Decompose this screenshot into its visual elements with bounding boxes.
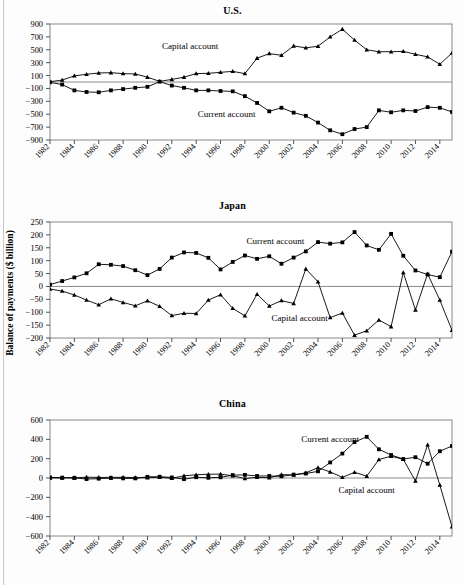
svg-text:900: 900: [30, 20, 43, 29]
svg-text:2004: 2004: [301, 537, 320, 556]
svg-text:−900: −900: [26, 136, 43, 145]
svg-text:1990: 1990: [131, 340, 149, 358]
svg-text:2002: 2002: [277, 340, 295, 358]
series-annotation: Capital account: [272, 313, 329, 323]
svg-text:1992: 1992: [155, 538, 173, 556]
svg-text:1984: 1984: [58, 141, 77, 160]
svg-text:1996: 1996: [204, 538, 222, 556]
svg-text:2012: 2012: [399, 142, 417, 160]
svg-text:2004: 2004: [301, 339, 320, 358]
svg-text:2010: 2010: [374, 340, 392, 358]
svg-text:200: 200: [30, 455, 43, 464]
svg-text:300: 300: [30, 59, 43, 68]
svg-text:1984: 1984: [58, 339, 77, 358]
svg-text:2000: 2000: [252, 340, 270, 358]
svg-text:2008: 2008: [350, 538, 368, 556]
svg-text:−500: −500: [26, 110, 43, 119]
svg-text:0: 0: [39, 282, 43, 291]
svg-text:1986: 1986: [82, 538, 100, 556]
chart-plot-china: −600−400−2000200400600198219841986198819…: [0, 390, 465, 585]
y-axis-title: Balance of payments ($ billion): [5, 195, 15, 391]
svg-text:1984: 1984: [58, 537, 77, 556]
svg-text:200: 200: [30, 231, 43, 240]
svg-text:−150: −150: [26, 321, 43, 330]
svg-text:1994: 1994: [179, 339, 198, 358]
svg-text:2012: 2012: [399, 538, 417, 556]
svg-text:1986: 1986: [82, 142, 100, 160]
svg-text:400: 400: [30, 435, 43, 444]
svg-text:2008: 2008: [350, 142, 368, 160]
svg-text:1992: 1992: [155, 142, 173, 160]
svg-text:1990: 1990: [131, 142, 149, 160]
svg-text:−50: −50: [30, 295, 43, 304]
svg-text:1992: 1992: [155, 340, 173, 358]
svg-text:500: 500: [30, 46, 43, 55]
svg-text:1990: 1990: [131, 538, 149, 556]
svg-text:1996: 1996: [204, 340, 222, 358]
svg-text:1988: 1988: [106, 340, 124, 358]
chart-plot-japan: −200−150−100−500501001502002501982198419…: [0, 195, 465, 390]
svg-text:1998: 1998: [228, 142, 246, 160]
svg-text:1998: 1998: [228, 538, 246, 556]
svg-text:−200: −200: [26, 493, 43, 502]
chart-panel-china: China −600−400−2000200400600198219841986…: [0, 390, 465, 585]
svg-text:2006: 2006: [326, 538, 344, 556]
svg-text:2010: 2010: [374, 538, 392, 556]
svg-text:2000: 2000: [252, 142, 270, 160]
svg-text:2002: 2002: [277, 538, 295, 556]
svg-text:50: 50: [35, 270, 43, 279]
chart-plot-us: −900−700−500−300−10010030050070090019821…: [0, 0, 465, 195]
svg-text:250: 250: [30, 218, 43, 227]
svg-text:2010: 2010: [374, 142, 392, 160]
svg-text:1994: 1994: [179, 141, 198, 160]
chart-panel-us: U.S. −900−700−500−300−100100300500700900…: [0, 0, 465, 195]
svg-text:1996: 1996: [204, 142, 222, 160]
svg-text:2000: 2000: [252, 538, 270, 556]
series-annotation: Current account: [246, 236, 304, 246]
svg-text:1998: 1998: [228, 340, 246, 358]
svg-text:1994: 1994: [179, 537, 198, 556]
svg-text:2006: 2006: [326, 340, 344, 358]
svg-text:1986: 1986: [82, 340, 100, 358]
svg-text:600: 600: [30, 416, 43, 425]
series-annotation: Capital account: [162, 41, 219, 51]
svg-text:1988: 1988: [106, 538, 124, 556]
svg-text:100: 100: [30, 72, 43, 81]
svg-text:−300: −300: [26, 97, 43, 106]
svg-text:2014: 2014: [423, 537, 442, 556]
svg-text:2012: 2012: [399, 340, 417, 358]
svg-text:2002: 2002: [277, 142, 295, 160]
series-annotation: Current account: [301, 434, 359, 444]
svg-text:2006: 2006: [326, 142, 344, 160]
svg-text:1988: 1988: [106, 142, 124, 160]
svg-text:2014: 2014: [423, 339, 442, 358]
y-axis-title-container: Balance of payments ($ billion): [0, 196, 18, 391]
svg-text:2004: 2004: [301, 141, 320, 160]
svg-text:700: 700: [30, 33, 43, 42]
series-annotation: Current account: [198, 109, 256, 119]
chart-panel-japan: Japan −200−150−100−500501001502002501982…: [0, 195, 465, 390]
svg-text:−100: −100: [26, 84, 43, 93]
series-annotation: Capital account: [339, 485, 396, 495]
svg-text:−200: −200: [26, 334, 43, 343]
svg-text:0: 0: [39, 474, 43, 483]
svg-text:−100: −100: [26, 308, 43, 317]
figure-page: U.S. −900−700−500−300−100100300500700900…: [0, 0, 465, 585]
svg-text:2008: 2008: [350, 340, 368, 358]
svg-text:150: 150: [30, 244, 43, 253]
svg-text:−400: −400: [26, 513, 43, 522]
svg-text:−700: −700: [26, 123, 43, 132]
svg-text:100: 100: [30, 257, 43, 266]
svg-text:2014: 2014: [423, 141, 442, 160]
svg-text:−600: −600: [26, 532, 43, 541]
